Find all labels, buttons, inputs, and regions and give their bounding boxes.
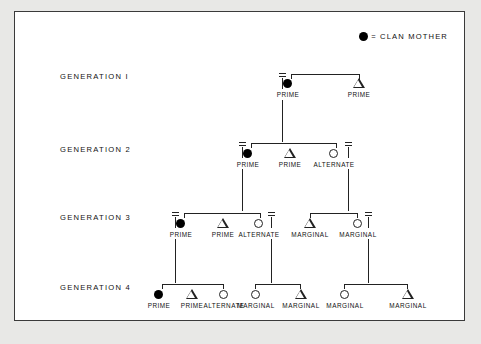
g4-node-1 <box>154 290 163 299</box>
g3-to-g4-descent-3 <box>368 239 369 283</box>
g2-sibling-bar <box>251 143 337 144</box>
generation-label-4: GENERATION 4 <box>60 283 131 292</box>
g3-sib-drop-1 <box>184 213 185 218</box>
g4-node-7 <box>402 289 414 299</box>
g2-to-g3-descent-right <box>348 169 349 211</box>
g3-node-4 <box>304 218 316 228</box>
filled-circle-icon <box>154 290 163 299</box>
g3-marriage-symbol-2 <box>268 212 275 216</box>
g3-node-2-label: PRIME <box>212 231 235 238</box>
g3-marriage-stem-3 <box>368 217 369 228</box>
g3-marriage-stem-2 <box>271 217 272 228</box>
g4-sibling-bar-b <box>255 284 301 285</box>
triangle-icon <box>217 218 229 228</box>
g3-node-1 <box>176 219 185 228</box>
g3-marriage-symbol-1 <box>172 212 179 216</box>
g4-node-5 <box>295 289 307 299</box>
g3-sib-drop-5 <box>357 213 358 218</box>
triangle-icon <box>295 289 307 299</box>
g3-node-3-label: ALTERNATE <box>238 231 279 238</box>
generation-label-2: GENERATION 2 <box>60 145 131 154</box>
g3-marriage-symbol-3 <box>365 212 372 216</box>
g2-to-g3-descent-left <box>242 169 243 211</box>
g4-node-2-label: PRIME <box>181 302 204 309</box>
open-circle-icon <box>251 290 260 299</box>
g2-sib-drop-1 <box>251 143 252 148</box>
g1-node-1-label: PRIME <box>277 91 300 98</box>
g2-marriage-stem-right <box>348 147 349 158</box>
g4-node-1-label: PRIME <box>148 302 171 309</box>
g4-node-2 <box>186 289 198 299</box>
g1-node-1 <box>283 79 292 88</box>
triangle-icon <box>402 289 414 299</box>
triangle-icon <box>186 289 198 299</box>
g3-node-2 <box>217 218 229 228</box>
g3-node-3 <box>254 219 263 228</box>
g3-sibling-bar-left <box>184 213 261 214</box>
filled-circle-icon <box>359 32 368 41</box>
g1-marriage-symbol <box>279 73 286 77</box>
g2-node-1 <box>243 149 252 158</box>
g2-marriage-symbol-left <box>239 142 246 146</box>
generation-label-3: GENERATION 3 <box>60 213 131 222</box>
g2-node-2 <box>284 148 296 158</box>
g2-node-2-label: PRIME <box>279 161 302 168</box>
g1-to-g2-descent <box>282 100 283 142</box>
filled-circle-icon <box>243 149 252 158</box>
g2-sib-drop-3 <box>336 143 337 148</box>
g4-sibling-bar-c <box>344 284 408 285</box>
g4-sib-drop-b1 <box>255 284 256 289</box>
g3-node-5-label: MARGINAL <box>339 231 376 238</box>
g4-sib-drop-a1 <box>162 284 163 289</box>
kinship-diagram: = CLAN MOTHER GENERATION I GENERATION 2 … <box>15 12 464 320</box>
g3-node-1-label: PRIME <box>170 231 193 238</box>
triangle-icon <box>304 218 316 228</box>
g2-node-1-label: PRIME <box>237 161 260 168</box>
g4-node-6 <box>340 290 349 299</box>
g4-node-6-label: MARGINAL <box>326 302 363 309</box>
filled-circle-icon <box>176 219 185 228</box>
g4-node-4-label: MARGINAL <box>237 302 274 309</box>
g1-union-bar <box>291 74 360 75</box>
g2-node-3-label: ALTERNATE <box>313 161 354 168</box>
g4-sibling-bar-a <box>162 284 224 285</box>
g4-node-3 <box>219 290 228 299</box>
g3-sibling-bar-right <box>310 213 358 214</box>
g3-to-g4-descent-2 <box>271 239 272 283</box>
g4-node-4 <box>251 290 260 299</box>
triangle-icon <box>353 78 365 88</box>
open-circle-icon <box>254 219 263 228</box>
chart-panel: = CLAN MOTHER GENERATION I GENERATION 2 … <box>14 11 465 321</box>
g3-node-5 <box>353 219 362 228</box>
open-circle-icon <box>219 290 228 299</box>
generation-label-1: GENERATION I <box>60 72 129 81</box>
open-circle-icon <box>329 149 338 158</box>
open-circle-icon <box>353 219 362 228</box>
g4-node-7-label: MARGINAL <box>389 302 426 309</box>
filled-circle-icon <box>283 79 292 88</box>
g3-node-4-label: MARGINAL <box>291 231 328 238</box>
triangle-icon <box>284 148 296 158</box>
g2-marriage-symbol-right <box>345 142 352 146</box>
g1-node-2 <box>353 78 365 88</box>
g2-node-3 <box>329 149 338 158</box>
legend: = CLAN MOTHER <box>359 32 448 41</box>
g3-to-g4-descent-1 <box>175 239 176 283</box>
open-circle-icon <box>340 290 349 299</box>
g4-sib-drop-a3 <box>223 284 224 289</box>
g1-node-2-label: PRIME <box>348 91 371 98</box>
legend-label: = CLAN MOTHER <box>371 32 448 41</box>
g3-sib-drop-3 <box>260 213 261 218</box>
g4-sib-drop-c1 <box>344 284 345 289</box>
g4-node-5-label: MARGINAL <box>282 302 319 309</box>
